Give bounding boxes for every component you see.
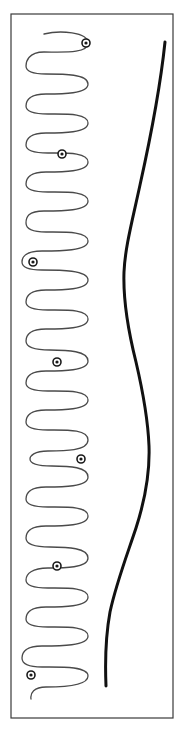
marker-6 (53, 562, 61, 570)
marker-2 (58, 150, 66, 158)
figure-container (0, 0, 185, 737)
marker-dot-icon (55, 360, 58, 363)
marker-4 (53, 358, 61, 366)
marker-dot-icon (79, 457, 82, 460)
marker-dot-icon (31, 260, 34, 263)
plot-border (11, 14, 173, 718)
marker-dot-icon (60, 152, 63, 155)
figure-canvas (0, 0, 185, 737)
marker-dot-icon (55, 564, 58, 567)
marker-1 (82, 39, 90, 47)
marker-dot-icon (84, 41, 87, 44)
marker-3 (29, 258, 37, 266)
marker-7 (27, 671, 35, 679)
marker-dot-icon (29, 673, 32, 676)
marker-5 (77, 455, 85, 463)
